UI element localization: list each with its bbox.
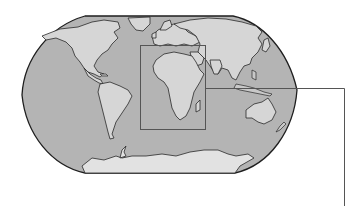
world-map-figure <box>0 0 362 206</box>
world-map-svg <box>0 0 362 206</box>
philippines-islands <box>252 70 256 80</box>
